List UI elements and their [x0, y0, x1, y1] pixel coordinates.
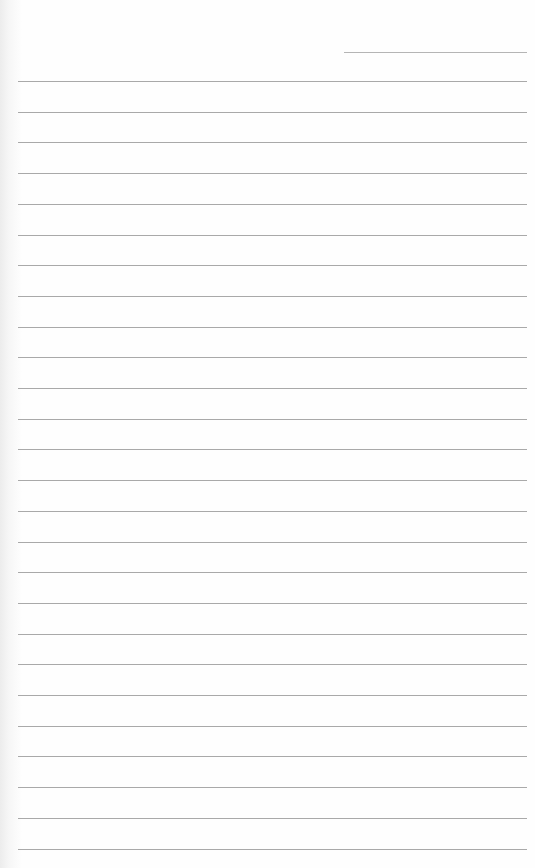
ruled-line	[18, 327, 527, 328]
ruled-line	[18, 634, 527, 635]
ruled-line	[18, 818, 527, 819]
ruled-line	[18, 388, 527, 389]
ruled-line	[18, 511, 527, 512]
ruled-line	[18, 664, 527, 665]
ruled-line	[18, 173, 527, 174]
ruled-line	[18, 296, 527, 297]
ruled-line	[18, 235, 527, 236]
ruled-line	[18, 726, 527, 727]
ruled-line	[18, 756, 527, 757]
page-edge-shadow	[0, 0, 22, 868]
notebook-page	[0, 0, 535, 868]
ruled-line	[18, 265, 527, 266]
ruled-line	[18, 357, 527, 358]
ruled-line	[18, 419, 527, 420]
ruled-line	[18, 112, 527, 113]
ruled-line	[18, 480, 527, 481]
header-rule	[344, 52, 527, 53]
ruled-line	[18, 204, 527, 205]
ruled-line	[18, 542, 527, 543]
ruled-line	[18, 449, 527, 450]
ruled-line	[18, 695, 527, 696]
ruled-line	[18, 603, 527, 604]
ruled-line	[18, 572, 527, 573]
ruled-line	[18, 849, 527, 850]
ruled-line	[18, 142, 527, 143]
ruled-line	[18, 787, 527, 788]
ruled-line	[18, 81, 527, 82]
